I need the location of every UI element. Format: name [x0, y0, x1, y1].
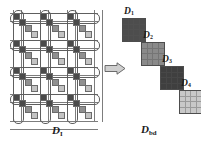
block-cell: [197, 108, 202, 114]
diagonal-block-label: D3: [162, 55, 172, 65]
block-diagonal-matrix: D1D2D3D4: [122, 8, 201, 120]
grid-line-vertical: [102, 10, 103, 122]
staircase-cell: [85, 58, 92, 65]
interleaved-matrix: [10, 10, 98, 122]
staircase-cell: [85, 85, 92, 92]
diagonal-block-label: D4: [181, 79, 191, 89]
grid-line-vertical: [94, 10, 95, 122]
staircase-cell: [85, 31, 92, 38]
staircase-cell: [31, 58, 38, 65]
diagonal-block: [179, 90, 201, 114]
staircase-cell: [58, 112, 65, 119]
block-diagonal-matrix-label: Dbd: [141, 124, 157, 136]
diagonal-block-label: D2: [143, 31, 153, 41]
staircase-cell: [31, 85, 38, 92]
staircase-cell: [58, 58, 65, 65]
diagonal-block-label: D1: [124, 7, 134, 17]
staircase-cell: [85, 112, 92, 119]
staircase-cell: [31, 31, 38, 38]
figure-canvas: DI D1D2D3D4 Dbd: [0, 0, 201, 147]
staircase-cell: [31, 112, 38, 119]
interleaved-matrix-label: DI: [52, 125, 63, 137]
staircase-cell: [58, 31, 65, 38]
staircase-cell: [58, 85, 65, 92]
